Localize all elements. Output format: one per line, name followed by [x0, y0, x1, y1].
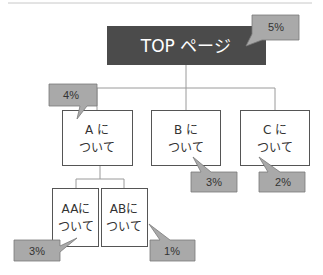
node-b-line2: ついて [168, 141, 204, 155]
node-aa-line2: ついて [58, 220, 94, 234]
node-c[interactable]: C に ついて [241, 111, 310, 166]
node-a-rate-value: 4% [63, 89, 79, 101]
top-rate-value: 5% [268, 21, 284, 33]
site-structure-diagram: TOP ページ 5% A に ついて B に ついて C に ついて 4% 3%… [0, 0, 323, 275]
node-ab-rate-callout: 1% [149, 224, 195, 261]
connectors-level-1 [97, 65, 275, 110]
node-a-line1: A に [85, 123, 109, 137]
node-ab[interactable]: ABに ついて [102, 189, 148, 247]
top-page-node[interactable]: TOP ページ [107, 26, 266, 65]
top-page-label: TOP ページ [140, 36, 231, 56]
node-a[interactable]: A に ついて [63, 111, 133, 166]
node-c-rate-value: 2% [275, 176, 291, 188]
node-b[interactable]: B に ついて [152, 111, 221, 166]
node-b-line1: B に [174, 123, 198, 137]
top-rate-callout: 5% [246, 15, 299, 46]
node-ab-line1: ABに [110, 202, 138, 216]
node-ab-line2: ついて [106, 220, 142, 234]
node-aa-line1: AAに [62, 202, 91, 216]
node-ab-rate-value: 1% [164, 245, 180, 257]
node-a-line2: ついて [79, 141, 115, 155]
node-c-line2: ついて [257, 141, 293, 155]
node-c-line1: C に [263, 123, 287, 137]
node-aa[interactable]: AAに ついて [53, 189, 99, 247]
connectors-level-2 [76, 165, 124, 188]
node-aa-rate-value: 3% [29, 245, 45, 257]
node-b-rate-value: 3% [206, 176, 222, 188]
